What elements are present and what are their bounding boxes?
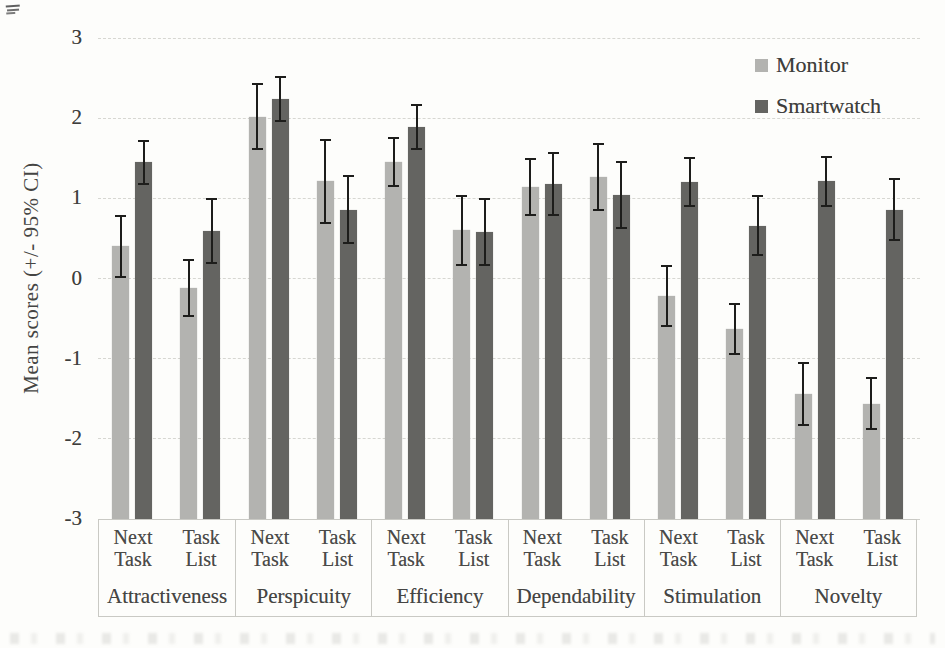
error-cap-top <box>798 362 809 364</box>
error-cap-bottom <box>821 205 832 207</box>
bar-smartwatch-dependability-next-task <box>545 184 562 519</box>
error-bar-smartwatch-dependability-next-task <box>552 153 554 216</box>
gridline-3 <box>98 38 920 39</box>
error-bar-smartwatch-novelty-task-list <box>893 179 895 240</box>
bar-smartwatch-efficiency-next-task <box>408 127 425 519</box>
error-cap-top <box>388 137 399 139</box>
error-cap-top <box>252 83 263 85</box>
error-cap-bottom <box>548 214 559 216</box>
category-cell-attractiveness: NextTaskTaskListAttractiveness <box>99 520 235 616</box>
error-cap-top <box>889 178 900 180</box>
error-cap-bottom <box>729 353 740 355</box>
error-cap-top <box>206 198 217 200</box>
legend-item-monitor: Monitor <box>755 52 881 78</box>
error-bar-monitor-stimulation-next-task <box>666 266 668 325</box>
subgroup-label-row: NextTaskTaskList <box>372 526 507 571</box>
bar-smartwatch-efficiency-task-list <box>476 232 493 519</box>
legend-item-smartwatch: Smartwatch <box>755 93 881 119</box>
error-cap-bottom <box>115 276 126 278</box>
error-cap-bottom <box>138 183 149 185</box>
subgroup-label-next-task: NextTask <box>236 526 304 571</box>
bar-smartwatch-attractiveness-task-list <box>203 231 220 519</box>
error-cap-top <box>411 104 422 106</box>
error-bar-monitor-efficiency-next-task <box>393 138 395 186</box>
subgroup-label-row: NextTaskTaskList <box>99 526 235 571</box>
error-bar-monitor-attractiveness-next-task <box>120 216 122 277</box>
error-bar-smartwatch-novelty-next-task <box>825 157 827 207</box>
smartwatch-swatch-icon <box>755 100 768 113</box>
error-cap-top <box>525 158 536 160</box>
error-cap-top <box>661 265 672 267</box>
error-cap-top <box>548 152 559 154</box>
category-cell-dependability: NextTaskTaskListDependability <box>508 520 644 616</box>
error-cap-top <box>138 140 149 142</box>
error-bar-smartwatch-dependability-task-list <box>620 162 622 228</box>
y-tick-label-1: 1 <box>12 185 82 210</box>
subgroup-label-next-task: NextTask <box>781 526 849 571</box>
error-cap-top <box>275 76 286 78</box>
scan-noise-band <box>10 633 935 644</box>
subgroup-label-task-list: TaskList <box>167 526 235 571</box>
subgroup-label-row: NextTaskTaskList <box>645 526 780 571</box>
error-bar-smartwatch-stimulation-next-task <box>689 158 691 206</box>
category-cell-stimulation: NextTaskTaskListStimulation <box>644 520 780 616</box>
gridline--1 <box>98 358 920 359</box>
category-label-dependability: Dependability <box>509 584 644 611</box>
bar-monitor-attractiveness-task-list <box>180 288 197 519</box>
error-cap-top <box>456 195 467 197</box>
legend-label-smartwatch: Smartwatch <box>776 93 881 119</box>
error-cap-bottom <box>411 148 422 150</box>
error-cap-top <box>183 259 194 261</box>
subgroup-label-row: NextTaskTaskList <box>781 526 916 571</box>
legend: Monitor Smartwatch <box>755 52 881 119</box>
subgroup-label-next-task: NextTask <box>372 526 440 571</box>
subgroup-label-next-task: NextTask <box>645 526 713 571</box>
error-bar-smartwatch-perspicuity-next-task <box>279 77 281 120</box>
error-cap-bottom <box>343 242 354 244</box>
error-bar-monitor-perspicuity-task-list <box>324 140 326 223</box>
error-cap-bottom <box>616 227 627 229</box>
error-cap-top <box>616 161 627 163</box>
category-label-novelty: Novelty <box>781 584 916 611</box>
error-cap-top <box>343 175 354 177</box>
y-tick-label-3: 3 <box>12 25 82 50</box>
error-bar-monitor-dependability-task-list <box>597 144 599 210</box>
subgroup-label-task-list: TaskList <box>440 526 508 571</box>
bar-monitor-efficiency-next-task <box>385 162 402 519</box>
error-bar-monitor-efficiency-task-list <box>461 196 463 265</box>
scan-artifact-mark <box>6 4 22 14</box>
y-tick-label-2: 2 <box>12 105 82 130</box>
y-tick-label--2: -2 <box>12 425 82 450</box>
x-axis-label-band: NextTaskTaskListAttractivenessNextTaskTa… <box>98 519 917 617</box>
error-cap-bottom <box>456 264 467 266</box>
subgroup-label-task-list: TaskList <box>848 526 916 571</box>
bar-monitor-perspicuity-task-list <box>317 181 334 519</box>
bar-smartwatch-dependability-task-list <box>613 195 630 519</box>
error-bar-smartwatch-attractiveness-task-list <box>211 199 213 263</box>
bar-smartwatch-perspicuity-task-list <box>340 210 357 519</box>
error-bar-smartwatch-efficiency-next-task <box>416 105 418 150</box>
error-cap-bottom <box>275 120 286 122</box>
error-cap-top <box>479 198 490 200</box>
gridline-0 <box>98 278 920 279</box>
bar-smartwatch-perspicuity-next-task <box>272 99 289 519</box>
bar-smartwatch-stimulation-next-task <box>681 182 698 519</box>
error-bar-monitor-dependability-next-task <box>529 159 531 215</box>
subgroup-label-task-list: TaskList <box>712 526 780 571</box>
y-tick-label-0: 0 <box>12 265 82 290</box>
error-cap-bottom <box>479 264 490 266</box>
error-cap-bottom <box>320 222 331 224</box>
monitor-swatch-icon <box>755 59 768 72</box>
error-cap-bottom <box>684 205 695 207</box>
category-cell-novelty: NextTaskTaskListNovelty <box>780 520 916 616</box>
error-bar-smartwatch-perspicuity-task-list <box>347 176 349 243</box>
error-cap-top <box>729 303 740 305</box>
error-cap-bottom <box>866 428 877 430</box>
bar-monitor-dependability-task-list <box>590 177 607 519</box>
category-cell-perspicuity: NextTaskTaskListPerspicuity <box>235 520 371 616</box>
error-bar-monitor-stimulation-task-list <box>734 304 736 354</box>
bar-monitor-stimulation-task-list <box>726 329 743 519</box>
error-bar-monitor-novelty-next-task <box>802 363 804 426</box>
error-bar-smartwatch-stimulation-task-list <box>757 196 759 255</box>
gridline-1 <box>98 198 920 199</box>
